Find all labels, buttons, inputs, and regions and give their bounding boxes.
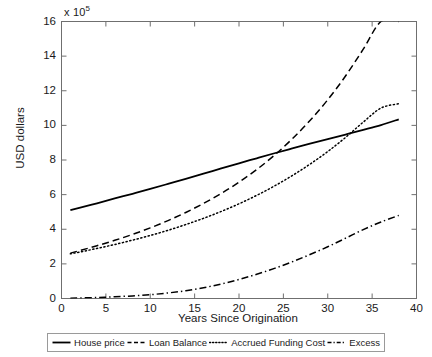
- legend-key-dotted-icon: [209, 338, 228, 347]
- legend-label: Loan Balance: [149, 338, 207, 348]
- plot-area: [0, 0, 432, 357]
- legend-key-dashed-icon: [127, 338, 146, 347]
- legend-label: House price: [74, 338, 125, 348]
- axes-frame: [62, 22, 417, 299]
- legend-key-solid-icon: [52, 338, 71, 347]
- legend-item-excess[interactable]: Excess: [327, 338, 380, 348]
- legend-label: Excess: [349, 338, 380, 348]
- legend-item-house-price[interactable]: House price: [52, 338, 125, 348]
- legend-item-accrued-funding-cost[interactable]: Accrued Funding Cost: [209, 338, 325, 348]
- legend-item-loan-balance[interactable]: Loan Balance: [127, 338, 207, 348]
- figure-container: x 105 USD dollars Years Since Originatio…: [0, 0, 432, 357]
- legend-label: Accrued Funding Cost: [231, 338, 325, 348]
- chart-legend[interactable]: House priceLoan BalanceAccrued Funding C…: [47, 333, 385, 352]
- legend-key-dashdot-icon: [327, 338, 346, 347]
